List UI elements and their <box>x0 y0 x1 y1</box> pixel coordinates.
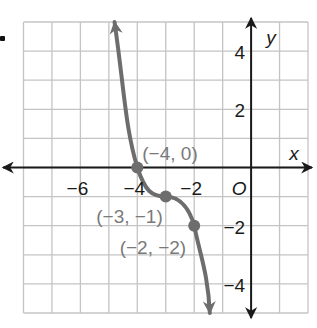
x-axis-label: x <box>288 143 300 164</box>
y-tick-label: 2 <box>235 100 246 121</box>
point-label: (−4, 0) <box>142 143 197 164</box>
labels: −6−4−242−2−4Oyx(−4, 0)(−3, −1)(−2, −2) <box>67 27 301 296</box>
y-tick-label: −2 <box>223 217 245 238</box>
y-axis-label: y <box>264 27 277 48</box>
x-tick-label: −6 <box>67 178 89 199</box>
y-tick-label: −4 <box>223 275 245 296</box>
axes <box>3 18 312 318</box>
y-tick-label: 4 <box>235 42 246 63</box>
point-label: (−3, −1) <box>96 206 163 227</box>
x-tick-label: −2 <box>180 178 202 199</box>
origin-label: O <box>232 178 247 199</box>
graph: −6−4−242−2−4Oyx(−4, 0)(−3, −1)(−2, −2) <box>0 0 317 328</box>
data-point <box>188 220 200 232</box>
x-tick-label: −4 <box>123 178 145 199</box>
data-point <box>160 191 172 203</box>
point-label: (−2, −2) <box>120 237 187 258</box>
